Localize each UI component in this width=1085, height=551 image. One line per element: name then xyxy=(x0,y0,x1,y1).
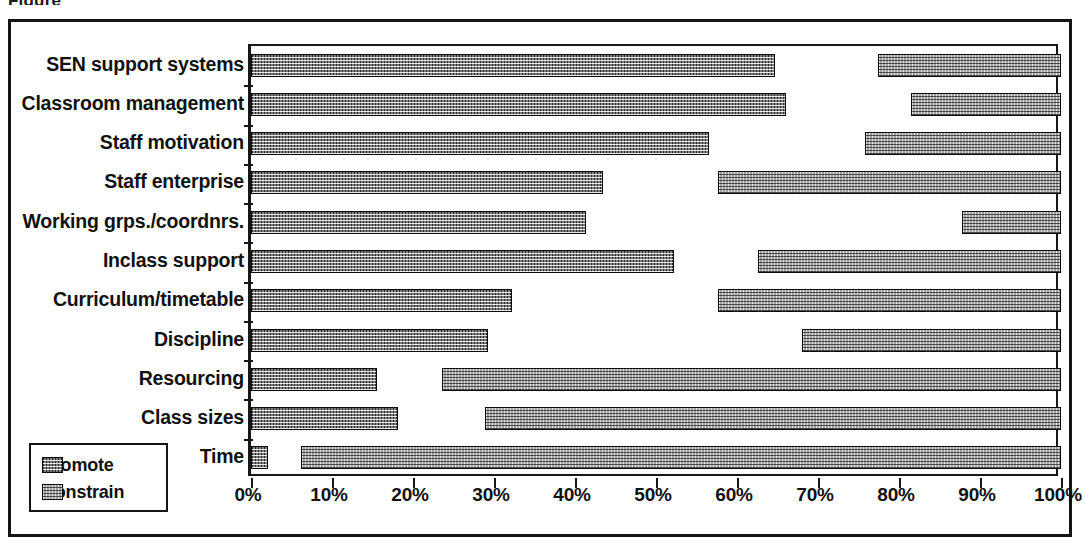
x-axis-tick-label: 10% xyxy=(310,484,347,506)
legend: Promote Constrain xyxy=(29,443,168,512)
y-axis-tick xyxy=(244,321,253,323)
legend-item-constrain: Constrain xyxy=(42,482,124,502)
bar-constrain xyxy=(758,250,1061,273)
bar-promote xyxy=(251,368,377,391)
bar-promote xyxy=(251,407,398,430)
category-label: Resourcing xyxy=(12,368,244,388)
bar-constrain xyxy=(718,289,1061,312)
bar-promote xyxy=(251,329,488,352)
bar-constrain xyxy=(878,54,1061,77)
bar-constrain xyxy=(442,368,1061,391)
y-axis-tick xyxy=(244,439,253,441)
x-axis-tick-label: 60% xyxy=(715,484,752,506)
bar-constrain xyxy=(802,329,1061,352)
category-label: SEN support systems xyxy=(12,54,244,74)
x-axis-tick-label: 100% xyxy=(1034,484,1082,506)
bar-constrain xyxy=(301,446,1061,469)
category-label: Discipline xyxy=(12,329,244,349)
category-label: Curriculum/timetable xyxy=(12,289,244,309)
y-axis-tick xyxy=(244,360,253,362)
bar-promote xyxy=(251,446,268,469)
bar-constrain xyxy=(962,211,1061,234)
bar-constrain xyxy=(718,171,1061,194)
bar-promote xyxy=(251,289,512,312)
bar-promote xyxy=(251,132,709,155)
bar-constrain xyxy=(485,407,1061,430)
x-axis-tick-label: 80% xyxy=(877,484,914,506)
x-axis-tick-label: 50% xyxy=(634,484,671,506)
category-label: Inclass support xyxy=(12,250,244,270)
y-axis-tick xyxy=(244,399,253,401)
x-axis-tick-label: 20% xyxy=(391,484,428,506)
legend-swatch-constrain-icon xyxy=(42,484,63,500)
bar-constrain xyxy=(911,93,1061,116)
bar-promote xyxy=(251,250,674,273)
category-label: Staff enterprise xyxy=(12,171,244,191)
y-axis-tick xyxy=(244,164,253,166)
top-cropped-caption: Figure xyxy=(8,0,61,5)
x-axis-tick-label: 70% xyxy=(796,484,833,506)
x-axis-tick-label: 0% xyxy=(234,484,261,506)
bar-promote xyxy=(251,93,786,116)
x-axis-tick-label: 90% xyxy=(958,484,995,506)
plot-area xyxy=(248,44,1058,476)
category-label: Classroom management xyxy=(12,93,244,113)
category-label: Working grps./coordnrs. xyxy=(12,211,244,231)
y-axis-tick xyxy=(244,242,253,244)
bar-promote xyxy=(251,54,775,77)
legend-swatch-promote-icon xyxy=(42,457,63,473)
y-axis-tick xyxy=(244,203,253,205)
legend-item-promote: Promote xyxy=(42,455,114,475)
y-axis-tick xyxy=(244,282,253,284)
bar-promote xyxy=(251,171,603,194)
category-axis-labels: SEN support systemsClassroom managementS… xyxy=(12,44,244,476)
x-axis-tick-label: 40% xyxy=(553,484,590,506)
category-label: Class sizes xyxy=(12,407,244,427)
bar-constrain xyxy=(865,132,1061,155)
category-label: Staff motivation xyxy=(12,132,244,152)
x-axis-tick-label: 30% xyxy=(472,484,509,506)
bar-promote xyxy=(251,211,586,234)
y-axis-tick xyxy=(244,85,253,87)
y-axis-tick xyxy=(244,125,253,127)
figure-page: Figure SEN support systemsClassroom mana… xyxy=(0,0,1085,551)
